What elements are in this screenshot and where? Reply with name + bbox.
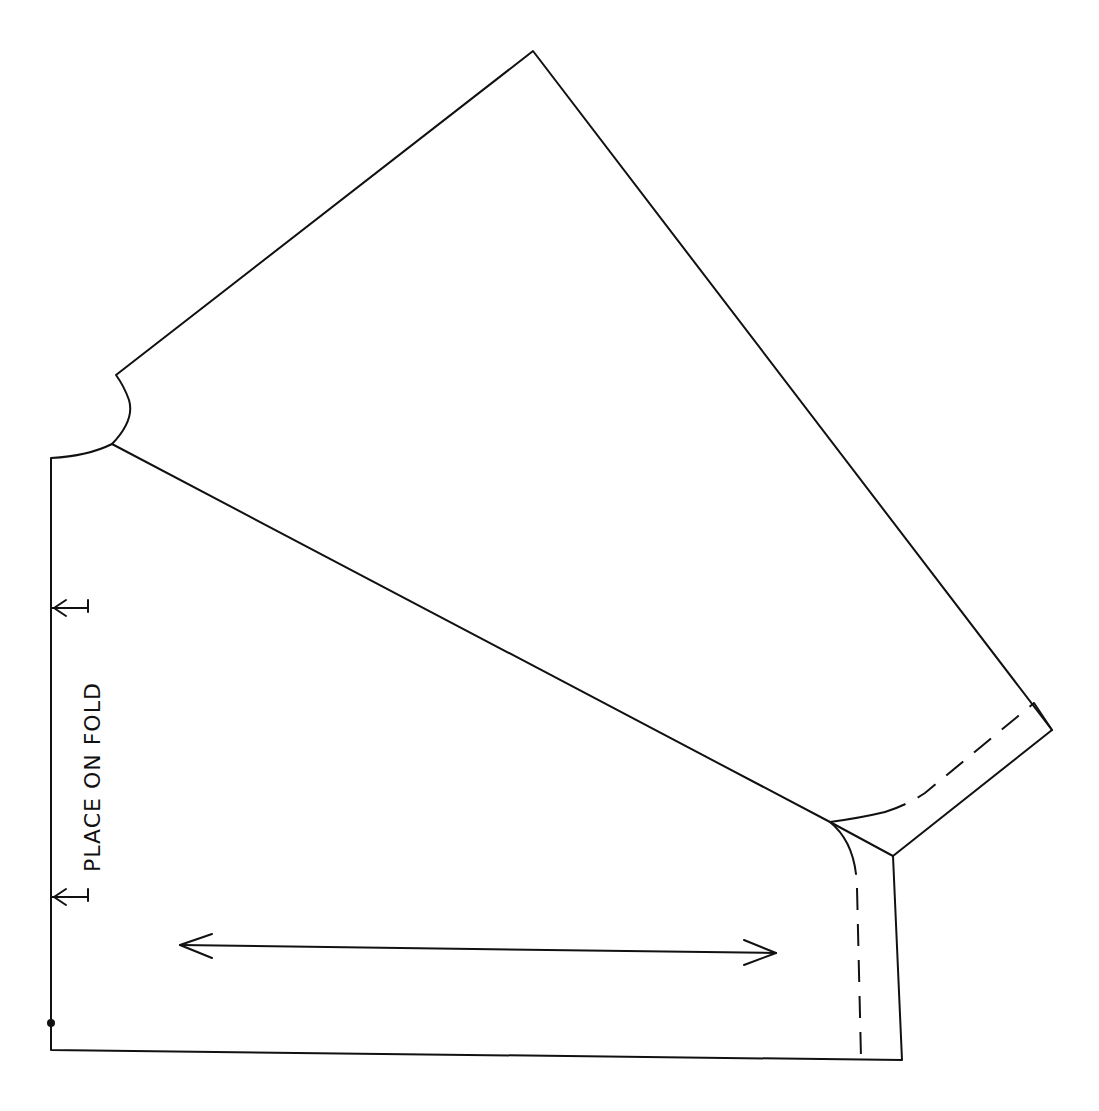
underarm-curve <box>830 812 885 822</box>
notch-dot <box>47 1019 55 1027</box>
pattern-outline <box>51 51 1052 1060</box>
raglan-seam-line <box>112 444 893 856</box>
grainline-arrow <box>180 934 776 965</box>
fold-label: PLACE ON FOLD <box>80 682 105 872</box>
side-seam-dashed <box>857 888 861 1058</box>
fold-arrow-bottom <box>52 889 88 905</box>
cuff-edge-line <box>1034 703 1052 730</box>
cuff-hemline-dashed <box>885 703 1034 812</box>
pattern-diagram: PLACE ON FOLD <box>0 0 1099 1111</box>
fold-arrow-top <box>52 600 88 616</box>
